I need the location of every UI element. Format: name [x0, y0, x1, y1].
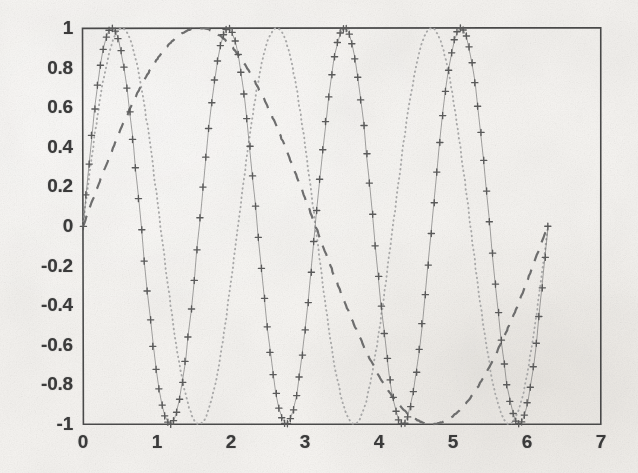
- x-tick-label: 3: [285, 431, 325, 453]
- x-tick-label: 1: [137, 431, 177, 453]
- x-tick-label: 6: [507, 431, 547, 453]
- y-tick-label: -0.4: [0, 294, 73, 316]
- x-tick-label: 4: [359, 431, 399, 453]
- y-tick-label: 0.4: [0, 136, 73, 158]
- x-tick-label: 5: [433, 431, 473, 453]
- plot-area: [0, 0, 638, 473]
- figure-canvas: -1-0.8-0.6-0.4-0.200.20.40.60.81 0123456…: [0, 0, 638, 473]
- x-tick-label: 7: [581, 431, 621, 453]
- y-tick-label: 0: [0, 215, 73, 237]
- y-tick-label: -0.8: [0, 373, 73, 395]
- x-tick-label: 2: [211, 431, 251, 453]
- y-tick-label: -0.2: [0, 255, 73, 277]
- series-sin4x-plus-markers: [80, 25, 551, 428]
- y-tick-label: 0.6: [0, 96, 73, 118]
- y-tick-label: -0.6: [0, 334, 73, 356]
- y-tick-label: 0.2: [0, 175, 73, 197]
- y-tick-label: 1: [0, 17, 73, 39]
- y-tick-label: 0.8: [0, 57, 73, 79]
- x-tick-label: 0: [63, 431, 103, 453]
